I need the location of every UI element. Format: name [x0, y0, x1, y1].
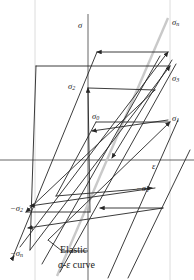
label-sigma-2: σ2 — [68, 82, 75, 91]
annotation-curve-word: curve — [73, 259, 95, 270]
label-neg-sigma-2: −σ2 — [10, 204, 23, 213]
sigma-axis-label: σ — [78, 21, 82, 30]
annotation-line-1: Elastic — [60, 244, 87, 256]
label-sigma-n-positive: σn — [172, 18, 179, 27]
annotation-line-2: σ-ε curve — [58, 259, 95, 271]
elastic-curve-line — [57, 18, 168, 276]
hysteresis-loops — [12, 52, 190, 278]
hysteresis-diagram-svg — [0, 0, 194, 280]
epsilon-axis-label: ε — [152, 162, 155, 171]
loop-sigma-3 — [30, 66, 170, 250]
hysteresis-figure: σ ε σn σ3 σ1 σ2 σ0 −σ1 −σ2 −σn Elastic σ… — [0, 0, 194, 280]
label-neg-sigma-n: −σn — [10, 249, 23, 258]
axis-lines — [0, 14, 194, 280]
label-sigma-0: σ0 — [92, 112, 99, 121]
label-sigma-1: σ1 — [172, 114, 179, 123]
label-neg-sigma-1: −σ1 — [136, 184, 149, 193]
annotation-epsilon: ε — [66, 259, 70, 270]
label-sigma-3: σ3 — [172, 74, 179, 83]
loop-branch-descend — [112, 60, 172, 158]
